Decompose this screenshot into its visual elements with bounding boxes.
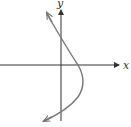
graph: x y: [0, 0, 131, 127]
curve-arrow-top: [47, 13, 52, 22]
y-axis-label: y: [56, 0, 64, 10]
parabola-curve: [44, 14, 83, 121]
x-axis-label: x: [123, 59, 130, 72]
curve-arrow-bottom: [44, 117, 52, 121]
